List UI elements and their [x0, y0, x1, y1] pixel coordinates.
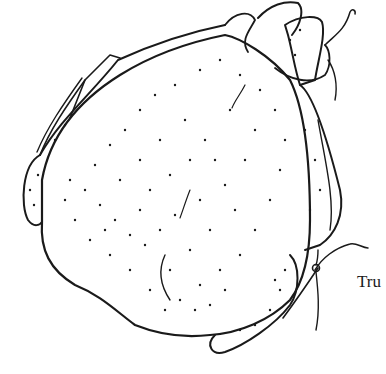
- trussed-chicken-illustration: [0, 0, 386, 374]
- stipple-texture: [29, 29, 321, 331]
- truss-string-bottom: [283, 268, 318, 318]
- body-outline: [42, 35, 310, 336]
- caption-label: Tru: [357, 272, 381, 292]
- wing-left: [24, 155, 42, 225]
- illustration-canvas: Tru: [0, 0, 386, 374]
- leg-bone-top: [285, 17, 323, 85]
- leg-right: [300, 85, 341, 250]
